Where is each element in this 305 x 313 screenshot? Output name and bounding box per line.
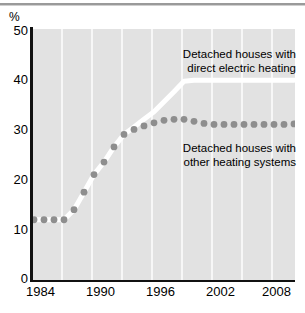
x-tick-2008: 2008: [262, 285, 291, 298]
y-tick-40: 40: [2, 73, 28, 86]
data-point: [291, 120, 295, 127]
annotation-electric-line2: direct electric heating: [183, 61, 296, 75]
x-tick-2002: 2002: [206, 285, 235, 298]
top-rule-shadow: [0, 5, 305, 6]
data-point: [201, 120, 208, 127]
annotation-electric-line1: Detached houses with: [183, 47, 296, 61]
y-tick-30: 30: [2, 123, 28, 136]
data-point: [161, 117, 168, 124]
data-point: [231, 121, 238, 128]
y-tick-0: 0: [2, 272, 28, 285]
data-point: [241, 121, 248, 128]
x-tick-1996: 1996: [146, 285, 175, 298]
annotation-other-line2: other heating systems: [183, 155, 296, 169]
data-point: [61, 216, 68, 223]
annotation-other-heating: Detached houses with other heating syste…: [183, 141, 296, 169]
data-point: [251, 121, 258, 128]
x-tick-1990: 1990: [86, 285, 115, 298]
y-tick-50: 50: [2, 24, 28, 37]
y-tick-20: 20: [2, 173, 28, 186]
data-point: [261, 121, 268, 128]
data-point: [141, 122, 148, 129]
data-point: [181, 116, 188, 123]
data-point: [101, 159, 108, 166]
data-point: [111, 144, 118, 151]
y-tick-10: 10: [2, 223, 28, 236]
annotation-electric-heating: Detached houses with direct electric hea…: [183, 47, 296, 75]
x-tick-1984: 1984: [26, 285, 55, 298]
data-point: [221, 121, 228, 128]
series-dots-other: [33, 116, 295, 223]
data-point: [71, 206, 78, 213]
data-point: [191, 118, 198, 125]
chart-figure: % 50 40 30 20 10 0 1984 1990 1996 2002 2…: [0, 0, 305, 313]
data-point: [131, 126, 138, 133]
data-point: [121, 131, 128, 138]
data-point: [151, 119, 158, 126]
data-point: [91, 171, 98, 178]
y-axis-tick-labels: 50 40 30 20 10 0: [0, 0, 28, 313]
data-point: [81, 189, 88, 196]
data-point: [171, 116, 178, 123]
data-point: [211, 121, 218, 128]
data-point: [281, 121, 288, 128]
data-point: [51, 216, 58, 223]
data-point: [271, 121, 278, 128]
data-point: [41, 216, 48, 223]
annotation-other-line1: Detached houses with: [183, 141, 296, 155]
